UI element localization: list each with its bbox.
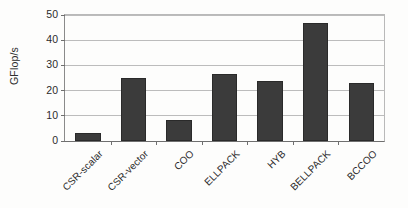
x-axis-category-label: HYB (265, 148, 288, 171)
bar-series (65, 15, 384, 141)
bar-chart-figure: GFlop/s 01020304050 CSR-scalarCSR-vector… (0, 0, 408, 208)
bar-hyb (257, 81, 283, 141)
x-axis-category-label: COO (172, 148, 196, 172)
plot-area (64, 14, 385, 142)
bar-slot (111, 15, 157, 141)
y-axis-tick-label: 20 (36, 84, 58, 96)
x-axis-category-label: BELLPACK (289, 148, 333, 192)
bar-coo (166, 120, 192, 141)
bar-csr-scalar (75, 133, 101, 141)
x-axis-tick-mark (202, 141, 203, 145)
x-axis-category-label: CSR-scalar (61, 148, 106, 193)
y-axis-title: GFlop/s (8, 28, 20, 104)
bar-bccoo (349, 83, 375, 141)
x-axis-category-label: CSR-vector (106, 148, 151, 193)
bar-slot (293, 15, 339, 141)
x-axis-tick-mark (111, 141, 112, 145)
x-axis-tick-mark (338, 141, 339, 145)
bar-csr-vector (121, 78, 147, 141)
x-axis-category-label: ELLPACK (202, 148, 242, 188)
bar-slot (65, 15, 111, 141)
y-axis-tick-label: 50 (36, 8, 58, 20)
bar-slot (247, 15, 293, 141)
y-axis-tick-label: 30 (36, 58, 58, 70)
bar-slot (156, 15, 202, 141)
x-axis-category-label: BCCOO (345, 148, 379, 182)
x-axis-tick-mark (156, 141, 157, 145)
bar-slot (202, 15, 248, 141)
y-axis-tick-label: 40 (36, 33, 58, 45)
y-axis-tick-labels: 01020304050 (30, 0, 58, 208)
bar-ellpack (212, 74, 238, 141)
x-axis-tick-mark (293, 141, 294, 145)
x-axis-tick-mark (247, 141, 248, 145)
x-axis-category-labels: CSR-scalarCSR-vectorCOOELLPACKHYBBELLPAC… (64, 146, 385, 206)
y-axis-tick-label: 0 (36, 134, 58, 146)
bar-slot (338, 15, 384, 141)
y-axis-tick-label: 10 (36, 109, 58, 121)
bar-bellpack (303, 23, 329, 141)
